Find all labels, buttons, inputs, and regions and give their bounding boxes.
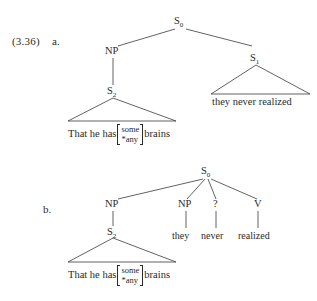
tree-a-leaf-s2: That he has some *any brains [68,124,170,145]
edge-a-s2-tri-right [113,98,176,121]
tree-b-node-np1: NP [105,199,118,212]
tree-b-node-s2: S2 [107,227,116,240]
edge-a-s1-tri-left [211,65,256,94]
tree-a-leaf-post: brains [144,129,170,140]
tree-b-alternation: some *any [121,266,139,285]
example-number: (3.36) [12,36,40,47]
tree-b-terminal-they: they [172,231,189,241]
tree-b-alt-bottom: *any [121,276,139,286]
syntax-tree-canvas [0,0,317,301]
tree-b-leaf-post: brains [144,270,170,281]
edge-a-s2-tri-left [68,98,113,121]
tree-b-terminal-never: never [201,231,223,241]
edge-b-s0-q [208,179,216,199]
edge-b-s2-tri-right [113,238,176,262]
tree-a-node-s0: S0 [174,16,183,29]
bracket-left-icon [117,265,120,286]
edge-b-s0-np1 [118,179,203,199]
tree-a-node-s2: S2 [107,86,116,99]
tree-b-terminal-realized: realized [238,231,270,241]
tree-b-node-np2: NP [178,199,191,212]
edge-a-s0-s1 [186,29,252,46]
edge-b-s0-v [211,179,257,199]
bracket-left-icon [117,124,120,145]
edge-b-s2-tri-left [68,238,113,262]
tree-b-node-s0: S0 [201,166,210,179]
tree-a-alt-bottom: *any [121,135,139,145]
tree-a-leaf-pre: That he has [68,129,116,140]
tree-a-leaf-s1: they never realized [212,97,292,108]
bracket-right-icon [140,124,143,145]
tree-b-leaf-s2: That he has some *any brains [68,265,170,286]
bracket-right-icon [140,265,143,286]
tree-b-node-q: ? [213,199,218,212]
edge-a-s1-tri-right [256,65,310,94]
item-letter-a: a. [52,36,60,47]
edge-a-s0-np [118,29,175,46]
tree-a-node-np: NP [105,46,118,59]
tree-b-node-v: V [254,199,262,212]
tree-b-leaf-pre: That he has [68,270,116,281]
item-letter-b: b. [43,204,51,215]
tree-a-alternation: some *any [121,125,139,144]
tree-a-node-s1: S1 [250,53,259,66]
